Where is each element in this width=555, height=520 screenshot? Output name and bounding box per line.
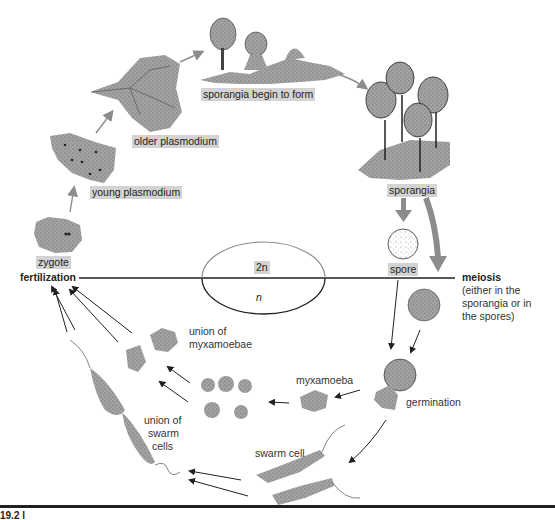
label-meiosis-note-1: (either in the (462, 284, 520, 297)
figure-label: 19.2 l (0, 510, 25, 520)
union-swarm-cells (70, 340, 180, 475)
label-older-plasmodium: older plasmodium (132, 135, 219, 148)
label-sporangia-begin: sporangia begin to form (201, 88, 315, 101)
myxamoeba-cell (300, 390, 328, 412)
arrow-swarm-to-union-2 (190, 480, 248, 496)
label-meiosis-note-2: sporangia or in (462, 297, 531, 310)
arrow-zygote-to-young (70, 188, 74, 212)
arrow-forming-to-sporangia (340, 75, 366, 88)
arrow-haploid-to-germination (411, 330, 420, 352)
arrow-myxamoebae-to-fertilization-1 (73, 287, 132, 333)
arrow-germination-to-swarm-cell (350, 420, 386, 462)
ellipse-haploid-half (202, 278, 325, 314)
myxamoebae-group (201, 376, 252, 419)
union-myxamoebae-cell-2 (126, 345, 146, 372)
arrow-myxamoeba-to-group (270, 402, 289, 403)
label-meiosis-note-3: the spores) (462, 310, 515, 323)
diagram-artwork (0, 0, 555, 520)
bottom-rule (0, 505, 555, 508)
arrow-sporangia-to-spore (395, 198, 412, 222)
label-young-plasmodium: young plasmodium (90, 186, 182, 199)
label-spore: spore (388, 263, 418, 276)
label-diploid: 2n (254, 261, 270, 274)
arrow-young-to-older (96, 112, 112, 133)
arrow-older-to-sporangia-forming (180, 52, 202, 62)
label-fertilization: fertilization (20, 271, 76, 284)
arrow-swarm-to-union-1 (190, 471, 241, 480)
label-union-swarm-3: cells (152, 440, 173, 453)
label-sporangia: sporangia (387, 184, 437, 197)
label-union-myxamoebae-2: myxamoebae (189, 338, 252, 351)
arrow-group-to-union-2 (160, 382, 188, 402)
swarm-cell-2 (272, 478, 360, 505)
label-union-swarm-2: swarm (148, 427, 179, 440)
label-meiosis: meiosis (462, 271, 501, 284)
arrow-group-to-union-1 (168, 367, 190, 383)
label-swarm-cell: swarm cell (255, 447, 305, 460)
label-zygote: zygote (36, 256, 71, 269)
label-union-swarm-1: union of (144, 414, 181, 427)
arrow-swarm-to-fertilization-1 (52, 287, 75, 330)
label-haploid: n (256, 291, 262, 304)
arrow-spore-to-germination (391, 280, 398, 348)
older-plasmodium (90, 55, 182, 132)
arrow-germination-to-myxamoeba (336, 390, 360, 397)
arrow-sporangia-to-meiosis (426, 198, 447, 272)
label-germination: germination (406, 396, 461, 409)
haploid-spore (408, 289, 440, 321)
label-union-myxamoebae-1: union of (189, 325, 226, 338)
union-myxamoebae-cell-1 (150, 328, 178, 352)
label-myxamoeba: myxamoeba (296, 374, 353, 387)
young-plasmodium (50, 133, 116, 183)
spore-cell (388, 229, 418, 259)
sporangia-mature (358, 62, 450, 180)
zygote-cell (34, 217, 82, 253)
slime-mold-life-cycle-diagram: sporangia begin to form older plasmodium… (0, 0, 555, 520)
sporangia-forming (200, 18, 345, 84)
